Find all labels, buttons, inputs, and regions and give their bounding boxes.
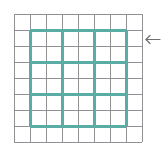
left-arrow-icon xyxy=(146,36,160,44)
minor-grid xyxy=(14,14,143,143)
figure-root xyxy=(0,0,161,159)
grid-figure-canvas xyxy=(0,0,161,159)
